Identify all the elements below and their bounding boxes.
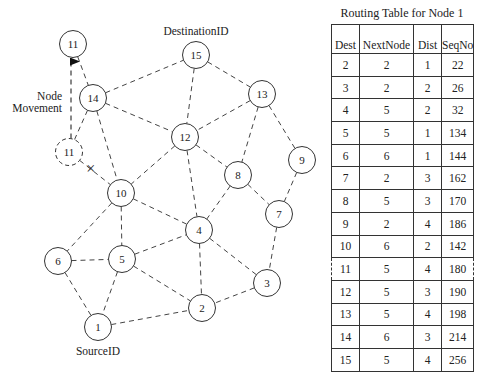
cell-dist: 4 bbox=[414, 212, 442, 235]
cell-dest: 13 bbox=[332, 303, 360, 326]
cell-dest: 5 bbox=[332, 122, 360, 145]
node-7: 7 bbox=[266, 201, 293, 228]
cell-dest: 11 bbox=[332, 258, 360, 281]
cell-dist: 3 bbox=[414, 280, 442, 303]
node-movement-label-line1: Node bbox=[37, 90, 62, 102]
cell-dest: 12 bbox=[332, 280, 360, 303]
graph-edge-5-2 bbox=[134, 266, 191, 301]
cell-dest: 9 bbox=[332, 212, 360, 235]
cell-nextnode: 5 bbox=[360, 348, 414, 371]
cell-dest: 4 bbox=[332, 99, 360, 122]
svg-text:2: 2 bbox=[199, 302, 205, 314]
cell-nextnode: 6 bbox=[360, 235, 414, 258]
graph-edge-14-12 bbox=[105, 103, 172, 131]
graph-edge-13-8 bbox=[242, 107, 258, 162]
node-11: 11 bbox=[60, 31, 87, 58]
cell-dest: 8 bbox=[332, 190, 360, 213]
svg-text:11: 11 bbox=[68, 38, 79, 50]
broken-link-mark: × bbox=[86, 160, 95, 177]
graph-edge-14-15 bbox=[105, 60, 183, 93]
destination-label: DestinationID bbox=[163, 25, 228, 37]
cell-seqno: 134 bbox=[442, 122, 474, 145]
cell-dist: 1 bbox=[414, 144, 442, 167]
node-6: 6 bbox=[45, 248, 72, 275]
cell-dest: 6 bbox=[332, 144, 360, 167]
node-3: 3 bbox=[254, 270, 281, 297]
routing-table-header: Dest NextNode Dist SeqNo bbox=[332, 25, 474, 54]
routing-table-title: Routing Table for Node 1 bbox=[312, 6, 492, 21]
graph-edge-13-12 bbox=[197, 101, 250, 131]
cell-dest: 15 bbox=[332, 348, 360, 371]
table-row: 723162 bbox=[332, 167, 474, 190]
node-4: 4 bbox=[186, 217, 213, 244]
graph-edge-3-2 bbox=[215, 288, 255, 303]
graph-edge-14-10 bbox=[97, 111, 117, 180]
graph-edge-6-5 bbox=[71, 259, 108, 260]
svg-text:3: 3 bbox=[264, 277, 270, 289]
graph-edge-8-7 bbox=[248, 184, 269, 204]
graph-edge-1-2 bbox=[111, 310, 188, 324]
cell-seqno: 162 bbox=[442, 167, 474, 190]
cell-seqno: 198 bbox=[442, 303, 474, 326]
cell-nextnode: 6 bbox=[360, 326, 414, 349]
cell-dist: 3 bbox=[414, 326, 442, 349]
cell-seqno: 256 bbox=[442, 348, 474, 371]
svg-text:6: 6 bbox=[55, 255, 61, 267]
svg-text:9: 9 bbox=[299, 154, 305, 166]
svg-text:1: 1 bbox=[95, 321, 101, 333]
cell-dist: 3 bbox=[414, 167, 442, 190]
graph-edge-7-3 bbox=[269, 227, 276, 269]
cell-nextnode: 2 bbox=[360, 54, 414, 77]
node-12: 12 bbox=[172, 124, 199, 151]
graph-edge-15-13 bbox=[208, 62, 251, 87]
table-row: 1253190 bbox=[332, 280, 474, 303]
graph-edge-10-5 bbox=[121, 206, 122, 245]
cell-dest: 2 bbox=[332, 54, 360, 77]
cell-dist: 2 bbox=[414, 235, 442, 258]
node-11-old-position: 11 bbox=[56, 139, 83, 166]
cell-seqno: 170 bbox=[442, 190, 474, 213]
table-row: 22122 bbox=[332, 54, 474, 77]
graph-edge-10-4 bbox=[133, 199, 187, 224]
svg-text:13: 13 bbox=[257, 88, 269, 100]
network-graph: × 11141115131298107465321 DestinationID … bbox=[0, 0, 320, 391]
graph-edge-12-10 bbox=[131, 146, 175, 184]
cell-seqno: 32 bbox=[442, 99, 474, 122]
cell-seqno: 22 bbox=[442, 54, 474, 77]
cell-dest: 14 bbox=[332, 326, 360, 349]
cell-seqno: 214 bbox=[442, 326, 474, 349]
cell-dist: 3 bbox=[414, 190, 442, 213]
cell-dist: 1 bbox=[414, 54, 442, 77]
svg-text:5: 5 bbox=[119, 253, 125, 265]
cell-nextnode: 5 bbox=[360, 258, 414, 281]
node-10: 10 bbox=[108, 180, 135, 207]
graph-edge-6-1 bbox=[65, 273, 91, 316]
col-header-dist: Dist bbox=[414, 25, 442, 54]
cell-seqno: 180 bbox=[442, 258, 474, 281]
node-1: 1 bbox=[85, 314, 112, 341]
table-row: 45232 bbox=[332, 99, 474, 122]
graph-edge-5-4 bbox=[135, 235, 187, 254]
cell-dist: 2 bbox=[414, 76, 442, 99]
node-5: 5 bbox=[109, 246, 136, 273]
cell-dist: 1 bbox=[414, 122, 442, 145]
cell-dest: 7 bbox=[332, 167, 360, 190]
node-9: 9 bbox=[289, 147, 316, 174]
cell-dest: 10 bbox=[332, 235, 360, 258]
cell-nextnode: 6 bbox=[360, 144, 414, 167]
node-movement-label-line2: Movement bbox=[12, 102, 63, 114]
node-2: 2 bbox=[189, 295, 216, 322]
table-row: 1463214 bbox=[332, 326, 474, 349]
cell-seqno: 186 bbox=[442, 212, 474, 235]
cell-seqno: 142 bbox=[442, 235, 474, 258]
table-row: 924186 bbox=[332, 212, 474, 235]
cell-dist: 4 bbox=[414, 303, 442, 326]
svg-text:7: 7 bbox=[276, 208, 282, 220]
cell-nextnode: 2 bbox=[360, 167, 414, 190]
cell-seqno: 144 bbox=[442, 144, 474, 167]
graph-edge-10-6 bbox=[67, 203, 112, 251]
cell-nextnode: 2 bbox=[360, 212, 414, 235]
node-15: 15 bbox=[183, 42, 210, 69]
graph-edge-11-14 bbox=[78, 57, 89, 86]
cell-nextnode: 5 bbox=[360, 122, 414, 145]
